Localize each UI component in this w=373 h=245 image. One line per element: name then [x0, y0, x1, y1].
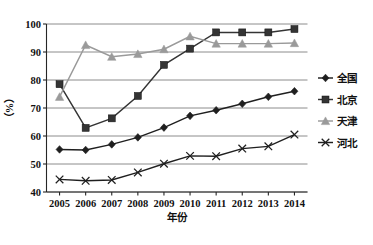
- series-河北: [56, 131, 299, 185]
- y-tick-label: 90: [31, 47, 42, 58]
- data-point: [55, 93, 63, 101]
- legend-label: 全国: [336, 72, 357, 84]
- data-point: [186, 32, 194, 40]
- series-line: [60, 135, 295, 181]
- data-series-group: [55, 26, 298, 185]
- x-tick-label: 2010: [180, 198, 201, 209]
- data-point: [213, 29, 220, 36]
- chart-container: 405060708090100 200520062007200820092010…: [0, 0, 373, 245]
- data-point: [213, 106, 220, 114]
- data-point: [265, 29, 272, 36]
- data-point: [239, 29, 246, 36]
- y-tick-label: 40: [31, 187, 42, 198]
- y-tick-label: 50: [31, 159, 42, 170]
- legend-item-北京[interactable]: 北京: [318, 94, 358, 106]
- x-axis-ticks: 2005200620072008200920102011201220132014: [49, 192, 306, 209]
- series-天津: [55, 32, 298, 100]
- legend-item-全国[interactable]: 全国: [318, 72, 357, 84]
- line-chart: 405060708090100 200520062007200820092010…: [0, 0, 373, 245]
- data-point: [134, 134, 141, 142]
- data-point: [108, 141, 115, 149]
- x-axis-title: 年份: [167, 211, 188, 223]
- data-point: [82, 146, 89, 154]
- series-北京: [56, 26, 298, 132]
- data-point: [160, 61, 167, 68]
- data-point: [187, 45, 194, 52]
- data-point: [291, 26, 298, 33]
- data-point: [160, 45, 168, 53]
- data-point: [239, 100, 246, 108]
- y-tick-label: 70: [31, 103, 42, 114]
- x-tick-label: 2009: [153, 198, 174, 209]
- x-tick-label: 2014: [284, 198, 306, 209]
- y-axis-title: （%）: [3, 93, 15, 124]
- y-tick-label: 60: [31, 131, 42, 142]
- legend-item-天津[interactable]: 天津: [318, 115, 358, 127]
- data-point: [265, 93, 272, 101]
- x-tick-label: 2006: [75, 198, 96, 209]
- y-tick-label: 100: [25, 19, 41, 30]
- data-point: [108, 115, 115, 122]
- legend-label: 天津: [337, 115, 358, 127]
- data-point: [291, 131, 299, 139]
- data-point: [134, 92, 141, 99]
- data-point: [187, 112, 194, 120]
- x-tick-label: 2005: [49, 198, 70, 209]
- data-point: [82, 124, 89, 131]
- legend-marker: [322, 74, 329, 82]
- x-tick-label: 2013: [258, 198, 279, 209]
- legend-item-河北[interactable]: 河北: [318, 137, 358, 149]
- chart-legend: 全国北京天津河北: [318, 72, 358, 149]
- series-line: [60, 36, 295, 96]
- x-tick-label: 2008: [127, 198, 148, 209]
- grid-lines: [47, 24, 308, 192]
- legend-label: 北京: [337, 94, 358, 106]
- data-point: [160, 124, 167, 132]
- x-tick-label: 2011: [206, 198, 226, 209]
- legend-label: 河北: [337, 137, 358, 149]
- series-全国: [56, 87, 298, 153]
- data-point: [291, 87, 298, 95]
- data-point: [134, 169, 142, 177]
- data-point: [81, 41, 89, 49]
- y-axis-ticks: 405060708090100: [25, 19, 46, 198]
- legend-marker: [322, 96, 329, 103]
- y-tick-label: 80: [31, 75, 42, 86]
- data-point: [56, 81, 63, 88]
- data-point: [56, 146, 63, 154]
- x-tick-label: 2012: [232, 198, 253, 209]
- x-tick-label: 2007: [101, 198, 122, 209]
- series-line: [60, 91, 295, 150]
